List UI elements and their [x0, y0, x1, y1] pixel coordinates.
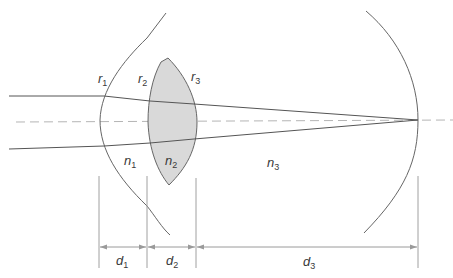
label-d2: d2	[166, 254, 178, 270]
optical-axis	[16, 120, 453, 122]
label-n3: n3	[267, 156, 279, 172]
label-n2: n2	[165, 154, 177, 170]
label-r3: r3	[191, 70, 200, 86]
label-d1: d1	[116, 254, 128, 270]
label-r2: r2	[138, 72, 147, 88]
label-r1: r1	[98, 72, 107, 88]
dimension-d2	[148, 245, 195, 250]
ray-upper	[9, 96, 418, 120]
diagram-graphics	[0, 0, 453, 278]
dimension-d1	[100, 245, 146, 250]
label-d3: d3	[303, 255, 315, 271]
label-n1: n1	[124, 154, 136, 170]
ray-lower	[9, 120, 418, 149]
eye-optics-diagram: r1 r2 r3 n1 n2 n3 d1 d2 d3	[0, 0, 453, 278]
dimension-d3	[197, 245, 417, 250]
